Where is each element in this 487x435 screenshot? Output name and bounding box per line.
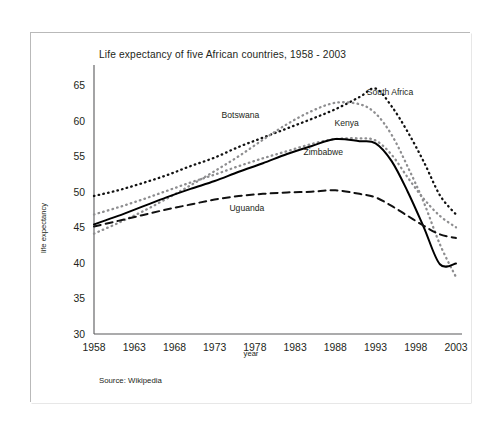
x-tick-label: 1983 [284, 342, 307, 353]
series-label-botswana: Botswana [222, 110, 260, 120]
y-tick-label: 55 [73, 151, 85, 162]
source-note: Source: Wikipedia [99, 376, 162, 385]
x-tick-label: 1998 [404, 342, 427, 353]
y-tick-label: 35 [73, 293, 85, 304]
series-label-zimbabwe: Zimbabwe [303, 147, 343, 157]
figure-frame: Life expectancy of five African countrie… [30, 32, 470, 402]
y-tick-label: 45 [73, 222, 85, 233]
series-label-uguanda: Uguanda [229, 203, 264, 213]
y-tick-label: 50 [73, 187, 85, 198]
y-tick-label: 40 [73, 258, 85, 269]
x-tick-label: 1973 [203, 342, 226, 353]
x-tick-label: 1958 [82, 342, 105, 353]
series-label-kenya: Kenya [334, 118, 359, 128]
y-tick-label: 65 [73, 80, 85, 91]
x-tick-label: 1993 [364, 342, 387, 353]
x-tick-label: 1968 [163, 342, 186, 353]
y-tick-label: 60 [73, 116, 85, 127]
x-tick-label: 2003 [444, 342, 467, 353]
chart-title: Life expectancy of five African countrie… [99, 49, 346, 60]
x-tick-label: 1988 [324, 342, 347, 353]
series-label-south-africa: South Africa [367, 87, 414, 97]
life-expectancy-line-chart: Life expectancy of five African countrie… [31, 33, 471, 403]
x-tick-label: 1963 [123, 342, 146, 353]
x-axis-title: year [244, 349, 259, 358]
y-tick-label: 30 [73, 329, 85, 340]
y-axis-title: life expectancy [39, 203, 48, 253]
